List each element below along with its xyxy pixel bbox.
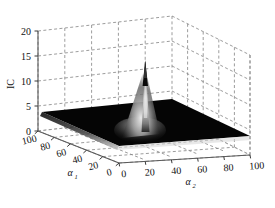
x-tick-80 bbox=[224, 157, 225, 160]
y-tick-label-60: 60 bbox=[55, 146, 67, 159]
y-tick-label-100: 100 bbox=[21, 132, 38, 146]
x-axis-label-alpha: α bbox=[185, 176, 191, 187]
y-axis-label: α 1 bbox=[67, 167, 77, 180]
y-tick-40 bbox=[83, 150, 86, 153]
x-tick-label-100: 100 bbox=[249, 159, 265, 171]
x-tick-100 bbox=[250, 155, 251, 158]
grid-wall-right-z20 bbox=[172, 16, 250, 55]
x-tick-0 bbox=[119, 163, 120, 166]
x-tick-label-20: 20 bbox=[144, 166, 155, 178]
y-tick-80 bbox=[51, 137, 54, 140]
x-tick-label-80: 80 bbox=[223, 161, 234, 173]
y-tick-label-80: 80 bbox=[39, 140, 51, 153]
y-tick-60 bbox=[67, 144, 70, 147]
grid-wall-right-z10 bbox=[172, 66, 250, 105]
grid-wall-left-z15 bbox=[38, 41, 172, 56]
z-axis-label: IC bbox=[5, 79, 16, 89]
x-axis-tick-labels: 0 20 40 60 80 100 bbox=[121, 159, 265, 179]
grid-wall-left-z20 bbox=[38, 16, 172, 31]
x-axis-label-subscript: 2 bbox=[192, 182, 196, 189]
z-tick-label-5: 5 bbox=[26, 101, 31, 112]
z-tick-label-20: 20 bbox=[21, 26, 31, 37]
grid-wall-left-z10 bbox=[38, 66, 172, 81]
y-tick-20 bbox=[100, 157, 103, 160]
x-tick-60 bbox=[198, 158, 199, 161]
x-tick-label-40: 40 bbox=[171, 165, 182, 177]
x-axis-label: α 2 bbox=[185, 176, 196, 189]
y-axis-label-subscript: 1 bbox=[74, 173, 77, 180]
y-tick-label-0: 0 bbox=[105, 166, 113, 178]
z-tick-label-10: 10 bbox=[21, 76, 31, 87]
x-tick-20 bbox=[145, 161, 146, 164]
x-tick-label-0: 0 bbox=[121, 168, 127, 179]
y-tick-label-20: 20 bbox=[87, 159, 99, 172]
y-tick-label-40: 40 bbox=[71, 153, 83, 166]
surface-plot-canvas: 20 15 10 5 0 100 80 60 40 20 0 0 20 40 6… bbox=[0, 0, 275, 208]
y-tick-0 bbox=[116, 163, 119, 166]
figure-3d-surface-plot: 20 15 10 5 0 100 80 60 40 20 0 0 20 40 6… bbox=[0, 0, 275, 208]
z-axis-tick-labels: 20 15 10 5 0 bbox=[21, 26, 31, 137]
z-tick-label-15: 15 bbox=[21, 51, 31, 62]
x-tick-label-60: 60 bbox=[197, 163, 208, 175]
x-tick-40 bbox=[171, 160, 172, 163]
y-axis-label-alpha: α bbox=[67, 167, 73, 178]
grid-wall-right-z15 bbox=[172, 41, 250, 80]
